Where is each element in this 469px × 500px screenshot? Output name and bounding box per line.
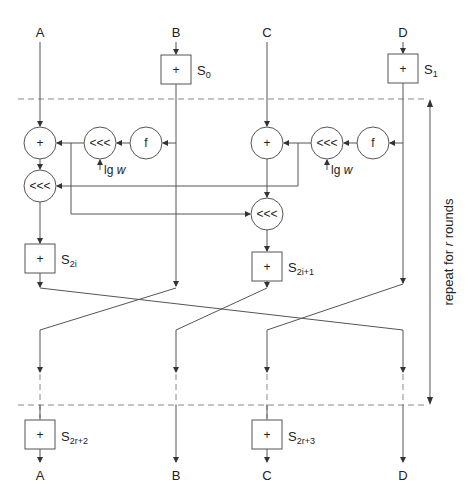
pre-whitening-b: + S0 [161, 42, 211, 84]
half-round-left: + <<< f lg w <<< + S2i [24, 127, 250, 287]
output-label-c: C [262, 468, 271, 483]
output-label-a: A [36, 468, 45, 483]
svg-text:<<<: <<< [256, 207, 277, 221]
repeat-arrow-up-icon [427, 99, 433, 107]
svg-text:+: + [36, 252, 43, 266]
post-whitening-c: + S2r+3 [252, 405, 315, 462]
svg-text:+: + [36, 428, 43, 442]
rotate-amount-right: lg w [331, 163, 354, 177]
key-label-s2i: S2i [61, 252, 77, 269]
key-label-s0: S0 [197, 63, 211, 80]
repeat-arrow-down-icon [427, 397, 433, 405]
repeat-label: repeat for r rounds [441, 198, 456, 305]
add-op-s1: + [399, 62, 406, 76]
add-op-s0: + [172, 63, 179, 77]
rc6-encryption-diagram: A B C D + S0 + S1 + <<< [0, 0, 469, 500]
svg-text:+: + [263, 428, 270, 442]
svg-text:+: + [36, 136, 43, 150]
output-labels: A B C D [36, 468, 408, 483]
svg-text:<<<: <<< [29, 179, 50, 193]
key-label-s2r3: S2r+3 [288, 429, 315, 446]
repeat-bracket: repeat for r rounds [427, 99, 456, 405]
input-label-c: C [262, 25, 271, 40]
post-whitening-a: + S2r+2 [25, 405, 88, 462]
input-label-b: B [172, 25, 181, 40]
input-label-a: A [36, 25, 45, 40]
rotate-amount-left: lg w [104, 163, 127, 177]
round-continuation [40, 374, 403, 418]
svg-text:+: + [263, 136, 270, 150]
key-label-s2r2: S2r+2 [61, 429, 88, 446]
output-label-d: D [398, 468, 407, 483]
input-labels: A B C D [36, 25, 408, 40]
key-label-s1: S1 [424, 62, 438, 79]
word-permutation [40, 284, 403, 372]
svg-text:<<<: <<< [316, 136, 337, 150]
key-label-s2i1: S2i+1 [288, 260, 314, 277]
svg-text:<<<: <<< [89, 136, 110, 150]
output-label-b: B [172, 468, 181, 483]
input-label-d: D [398, 25, 407, 40]
svg-text:+: + [263, 260, 270, 274]
pre-whitening-d: + S1 [388, 42, 438, 83]
